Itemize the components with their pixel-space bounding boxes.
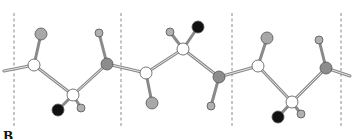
black-atom <box>52 104 64 116</box>
gray-atom <box>35 28 47 40</box>
small-gray-atom <box>77 104 85 112</box>
small-gray-atom <box>207 102 215 110</box>
white-atom <box>140 67 152 79</box>
panel-label: B <box>3 131 13 139</box>
gray-atom <box>146 97 158 109</box>
white-atom <box>177 43 189 55</box>
small-gray-atom <box>166 28 174 36</box>
small-gray-atom <box>315 36 323 44</box>
molecular-chain-diagram <box>0 0 353 139</box>
white-atom <box>28 59 40 71</box>
dark-gray-atom <box>101 58 113 70</box>
dark-gray-atom <box>320 62 332 74</box>
small-gray-atom <box>297 110 305 118</box>
white-atom <box>67 89 79 101</box>
small-gray-atom <box>95 29 103 37</box>
white-atom <box>286 96 298 108</box>
black-atom <box>272 111 284 123</box>
white-atom <box>252 60 264 72</box>
black-atom <box>192 21 204 33</box>
gray-atom <box>261 32 273 44</box>
dark-gray-atom <box>213 71 225 83</box>
